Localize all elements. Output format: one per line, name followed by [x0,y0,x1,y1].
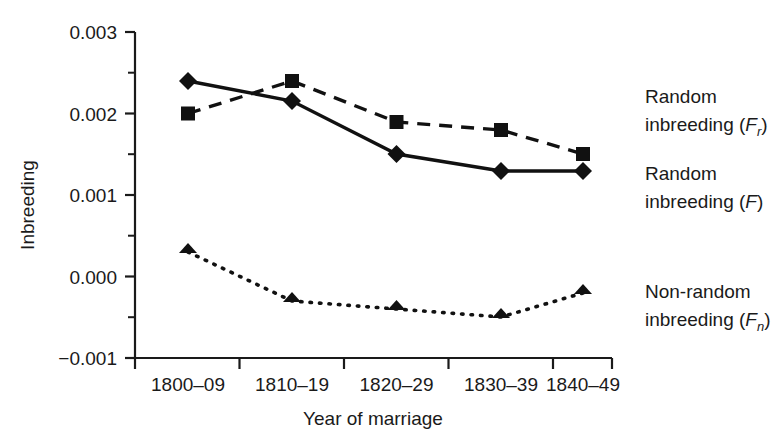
x-tick-label-4: 1840–49 [546,374,620,395]
legend-label-fn: Non-random inbreeding (Fn) [645,281,771,334]
legend-f-prefix: inbreeding ( [645,191,746,212]
x-tick-label-1: 1810–19 [255,374,329,395]
inbreeding-line-chart: 0.003 0.002 0.001 0.000 −0.001 1800–09 1… [0,0,784,446]
x-tick-label-3: 1830–39 [464,374,538,395]
x-axis-ticks [135,358,612,369]
legend-fr-line2: inbreeding (Fr) [645,114,768,139]
legend-fr-prefix: inbreeding ( [645,114,746,135]
y-tick-label-4: −0.001 [58,348,117,369]
x-tick-label-2: 1820–29 [360,374,434,395]
y-tick-label-2: 0.001 [69,185,117,206]
y-axis-major-ticks [125,32,135,358]
legend-fn-suffix: ) [764,309,770,330]
y-tick-label-3: 0.000 [69,267,117,288]
x-axis-title: Year of marriage [303,408,443,429]
legend-fr-suffix: ) [761,114,767,135]
legend-label-f: Random inbreeding (F) [645,163,763,212]
legend-fn-line2: inbreeding (Fn) [645,309,771,334]
legend-f-line1: Random [645,163,717,184]
y-tick-label-0: 0.003 [69,22,117,43]
series-fn-line [188,252,583,317]
series-f-markers [179,72,592,180]
legend-fr-line1: Random [645,86,717,107]
legend-f-line2: inbreeding (F) [645,191,763,212]
legend-fn-subscript: n [757,319,764,334]
y-axis-title: Inbreeding [17,160,38,250]
legend-f-suffix: ) [757,191,763,212]
legend-fn-prefix: inbreeding ( [645,309,746,330]
x-tick-label-0: 1800–09 [151,374,225,395]
legend-fn-line1: Non-random [645,281,751,302]
chart-figure: 0.003 0.002 0.001 0.000 −0.001 1800–09 1… [0,0,784,446]
legend-label-fr: Random inbreeding (Fr) [645,86,768,139]
y-tick-label-1: 0.002 [69,104,117,125]
series-f-line [188,81,583,171]
